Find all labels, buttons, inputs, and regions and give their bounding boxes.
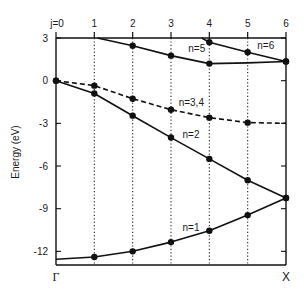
data-point	[168, 52, 174, 58]
data-point	[168, 134, 174, 140]
data-point	[244, 119, 250, 125]
data-point	[244, 212, 250, 218]
y-tick-label: 3	[42, 33, 48, 44]
curve-label: n=2	[183, 129, 200, 140]
data-point	[206, 60, 212, 66]
data-point	[206, 39, 212, 45]
data-point	[91, 90, 97, 96]
curve-labels: n=1n=2n=3,4n=5n=6	[179, 40, 275, 233]
j-label: 6	[283, 18, 289, 29]
j-label: 4	[207, 18, 213, 29]
j-label: 1	[92, 18, 98, 29]
data-point	[129, 112, 135, 118]
curve-label: n=1	[183, 222, 200, 233]
curve-label: n=6	[257, 40, 274, 51]
data-point	[206, 228, 212, 234]
data-point	[283, 58, 289, 64]
data-point	[244, 49, 250, 55]
j-label: 2	[130, 18, 136, 29]
data-point	[206, 156, 212, 162]
data-series	[53, 38, 289, 260]
j-label: 3	[168, 18, 174, 29]
data-point	[129, 96, 135, 102]
y-tick-label: 0	[42, 75, 48, 86]
j-label: 5	[245, 18, 251, 29]
j-label: j=0	[49, 18, 64, 29]
y-tick-label: -12	[34, 246, 49, 257]
y-tick-label: -3	[39, 118, 48, 129]
band-structure-chart: 30-3-6-9-12j=0123456ΓXEnergy (eV) n=1n=2…	[0, 0, 304, 297]
data-point	[129, 248, 135, 254]
data-point	[129, 43, 135, 49]
gamma-point-label: Γ	[53, 270, 60, 284]
curve-label: n=3,4	[179, 97, 205, 108]
data-point	[168, 106, 174, 112]
y-tick-label: -6	[39, 161, 48, 172]
data-point	[283, 195, 289, 201]
data-point	[244, 177, 250, 183]
data-point	[91, 254, 97, 260]
data-point	[168, 239, 174, 245]
data-point	[206, 114, 212, 120]
y-axis-title: Energy (eV)	[10, 125, 21, 178]
x-point-label: X	[282, 270, 290, 284]
data-point	[91, 82, 97, 88]
y-tick-label: -9	[39, 203, 48, 214]
data-point-origin	[53, 77, 59, 83]
curve-label: n=5	[188, 43, 205, 54]
vertical-grid-lines	[94, 38, 247, 265]
